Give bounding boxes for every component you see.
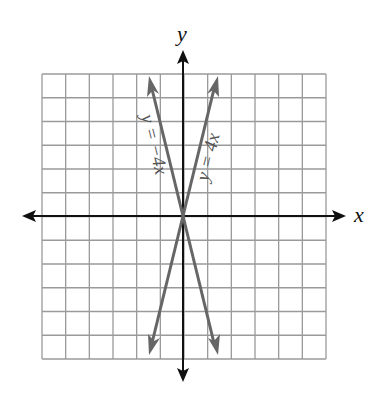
- coordinate-plane: x y y = 4x y = −4x: [0, 0, 382, 406]
- y-axis-label: y: [175, 21, 187, 46]
- x-axis-label: x: [353, 202, 364, 227]
- line-label-y-4x: y = 4x: [191, 130, 224, 185]
- line-label-y-neg4x: y = −4x: [137, 110, 173, 177]
